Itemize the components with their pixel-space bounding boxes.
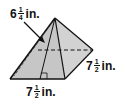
denominator: 2 bbox=[94, 66, 100, 73]
base-side-bottom-label: 7 1 2 in. bbox=[26, 84, 56, 99]
whole-number: 7 bbox=[86, 60, 93, 72]
pointer-arrow-line bbox=[24, 22, 42, 40]
whole-number: 6 bbox=[10, 8, 17, 20]
base-side-right-label: 7 1 2 in. bbox=[86, 58, 116, 73]
fraction: 1 4 bbox=[18, 6, 24, 21]
whole-number: 7 bbox=[26, 86, 33, 98]
denominator: 4 bbox=[18, 14, 24, 21]
numerator: 1 bbox=[34, 84, 40, 92]
unit: in. bbox=[42, 86, 56, 98]
unit: in. bbox=[26, 8, 40, 20]
unit: in. bbox=[102, 60, 116, 72]
slant-height-label: 6 1 4 in. bbox=[10, 6, 40, 21]
fraction: 1 2 bbox=[94, 58, 100, 73]
numerator: 1 bbox=[18, 6, 24, 14]
numerator: 1 bbox=[94, 58, 100, 66]
fraction: 1 2 bbox=[34, 84, 40, 99]
denominator: 2 bbox=[34, 92, 40, 99]
